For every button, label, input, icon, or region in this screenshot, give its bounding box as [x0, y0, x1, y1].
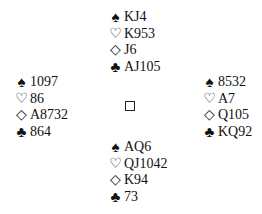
south-diamonds-cards: K94: [124, 172, 148, 189]
diamond-icon: ◇: [202, 107, 217, 124]
south-clubs-cards: 73: [124, 189, 138, 206]
east-spades-cards: 8532: [218, 74, 246, 91]
west-diamonds: ◇A8732: [14, 107, 68, 124]
north-hearts-cards: K953: [124, 26, 155, 43]
club-icon: ♣: [108, 59, 123, 76]
diamond-icon: ◇: [108, 42, 123, 59]
south-spades-cards: AQ6: [124, 139, 151, 156]
east-clubs: ♣KQ92: [202, 124, 252, 141]
club-icon: ♣: [108, 189, 123, 206]
east-hand: ♠8532 ♡A7 ◇Q105 ♣KQ92: [202, 74, 252, 140]
spade-icon: ♠: [108, 9, 123, 26]
spade-icon: ♠: [108, 139, 123, 156]
north-diamonds-cards: J6: [124, 42, 136, 59]
south-diamonds: ◇K94: [108, 172, 168, 189]
north-hearts: ♡K953: [108, 26, 161, 43]
north-hand: ♠KJ4 ♡K953 ◇J6 ♣AJ105: [108, 9, 161, 75]
south-spades: ♠AQ6: [108, 139, 168, 156]
west-hearts: ♡86: [14, 91, 68, 108]
north-clubs-cards: AJ105: [124, 59, 161, 76]
east-hearts: ♡A7: [202, 91, 252, 108]
heart-icon: ♡: [14, 91, 29, 108]
west-clubs-cards: 864: [30, 124, 51, 141]
north-spades: ♠KJ4: [108, 9, 161, 26]
east-hearts-cards: A7: [218, 91, 235, 108]
north-clubs: ♣AJ105: [108, 59, 161, 76]
west-spades-cards: 1097: [30, 74, 58, 91]
east-spades: ♠8532: [202, 74, 252, 91]
east-clubs-cards: KQ92: [218, 124, 252, 141]
east-diamonds-cards: Q105: [218, 107, 249, 124]
club-icon: ♣: [14, 124, 29, 141]
west-clubs: ♣864: [14, 124, 68, 141]
south-hand: ♠AQ6 ♡QJ1042 ◇K94 ♣73: [108, 139, 168, 205]
club-icon: ♣: [202, 124, 217, 141]
east-diamonds: ◇Q105: [202, 107, 252, 124]
south-clubs: ♣73: [108, 189, 168, 206]
diamond-icon: ◇: [108, 172, 123, 189]
table-center-square: [125, 101, 135, 111]
heart-icon: ♡: [202, 91, 217, 108]
west-spades: ♠1097: [14, 74, 68, 91]
south-hearts: ♡QJ1042: [108, 156, 168, 173]
north-spades-cards: KJ4: [124, 9, 147, 26]
south-hearts-cards: QJ1042: [124, 156, 168, 173]
heart-icon: ♡: [108, 156, 123, 173]
spade-icon: ♠: [202, 74, 217, 91]
heart-icon: ♡: [108, 26, 123, 43]
north-diamonds: ◇J6: [108, 42, 161, 59]
west-hand: ♠1097 ♡86 ◇A8732 ♣864: [14, 74, 68, 140]
west-diamonds-cards: A8732: [30, 107, 68, 124]
spade-icon: ♠: [14, 74, 29, 91]
west-hearts-cards: 86: [30, 91, 44, 108]
diamond-icon: ◇: [14, 107, 29, 124]
